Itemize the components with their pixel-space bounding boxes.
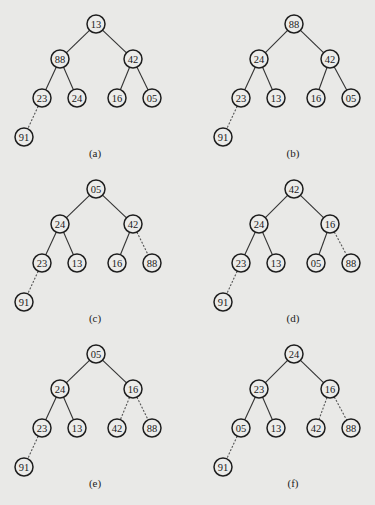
- tree-edge: [103, 30, 127, 53]
- node-value: 23: [236, 93, 247, 104]
- tree-node: 42: [307, 419, 325, 437]
- panel-caption: (b): [287, 147, 300, 160]
- node-value: 88: [346, 423, 357, 434]
- node-value: 42: [128, 54, 139, 65]
- node-value: 13: [271, 93, 282, 104]
- node-value: 23: [37, 258, 48, 269]
- node-value: 24: [254, 54, 265, 65]
- node-value: 05: [91, 349, 102, 360]
- tree-node: 91: [15, 458, 33, 476]
- tree-edge: [46, 232, 56, 255]
- tree-node: 13: [68, 419, 86, 437]
- tree-node: 13: [68, 254, 86, 272]
- panel-caption: (d): [287, 312, 300, 325]
- dashed-edge: [137, 232, 148, 255]
- tree-node: 05: [342, 89, 360, 107]
- tree-node: 24: [285, 345, 303, 363]
- node-value: 23: [37, 423, 48, 434]
- tree-edge: [46, 397, 56, 420]
- tree-edge: [245, 232, 255, 255]
- tree-edge: [319, 68, 327, 90]
- tree-edge: [64, 397, 74, 419]
- tree-edge: [64, 67, 74, 89]
- dashed-edge: [28, 436, 38, 459]
- node-value: 91: [19, 132, 30, 143]
- tree-node: 05: [143, 89, 161, 107]
- tree-panel-a: 1388422324160591(a): [15, 15, 161, 160]
- node-value: 05: [91, 184, 102, 195]
- tree-edge: [263, 232, 273, 254]
- tree-edge: [265, 30, 287, 52]
- node-value: 91: [218, 462, 229, 473]
- panel-caption: (e): [89, 477, 102, 490]
- node-value: 13: [271, 258, 282, 269]
- tree-edge: [319, 233, 327, 255]
- node-value: 42: [289, 184, 300, 195]
- node-value: 13: [72, 423, 83, 434]
- node-value: 23: [236, 258, 247, 269]
- tree-node: 42: [108, 419, 126, 437]
- node-value: 13: [271, 423, 282, 434]
- node-value: 88: [346, 258, 357, 269]
- tree-edge: [245, 397, 255, 420]
- tree-panel-d: 4224162313058891(d): [214, 180, 360, 325]
- tree-node: 05: [87, 345, 105, 363]
- tree-edge: [67, 360, 90, 382]
- dashed-edge: [227, 106, 237, 129]
- node-value: 42: [311, 423, 322, 434]
- node-value: 42: [325, 54, 336, 65]
- node-value: 24: [55, 219, 66, 230]
- tree-node: 24: [250, 50, 268, 68]
- tree-node: 16: [124, 380, 142, 398]
- tree-node: 91: [214, 458, 232, 476]
- tree-node: 23: [232, 254, 250, 272]
- tree-edge: [265, 360, 287, 382]
- node-value: 23: [254, 384, 265, 395]
- tree-panel-f: 2423160513428891(f): [214, 345, 360, 490]
- dashed-edge: [28, 271, 38, 294]
- tree-edge: [301, 195, 324, 217]
- tree-node: 05: [232, 419, 250, 437]
- node-value: 88: [147, 423, 158, 434]
- tree-node: 91: [214, 293, 232, 311]
- node-value: 05: [147, 93, 158, 104]
- tree-node: 05: [87, 180, 105, 198]
- node-value: 13: [72, 258, 83, 269]
- node-value: 13: [91, 19, 102, 30]
- tree-node: 13: [267, 419, 285, 437]
- tree-panel-b: 8824422313160591(b): [214, 15, 360, 160]
- tree-node: 88: [143, 419, 161, 437]
- tree-node: 24: [51, 215, 69, 233]
- heap-sort-figure: 1388422324160591(a)8824422313160591(b)05…: [0, 0, 375, 505]
- tree-node: 13: [267, 89, 285, 107]
- node-value: 24: [289, 349, 300, 360]
- tree-node: 42: [124, 215, 142, 233]
- tree-node: 23: [232, 89, 250, 107]
- tree-node: 42: [321, 50, 339, 68]
- tree-node: 23: [33, 419, 51, 437]
- tree-edge: [67, 195, 90, 217]
- node-value: 24: [55, 384, 66, 395]
- tree-node: 91: [15, 128, 33, 146]
- tree-node: 88: [285, 15, 303, 33]
- node-value: 91: [19, 297, 30, 308]
- tree-edge: [301, 360, 324, 382]
- dashed-edge: [334, 397, 346, 420]
- tree-node: 13: [267, 254, 285, 272]
- tree-edge: [301, 30, 324, 52]
- panel-caption: (f): [288, 477, 299, 490]
- tree-edge: [137, 67, 148, 90]
- node-value: 05: [346, 93, 357, 104]
- tree-panel-c: 0524422313168891(c): [15, 180, 161, 325]
- tree-edge: [334, 67, 346, 90]
- tree-edge: [245, 67, 255, 90]
- tree-node: 88: [51, 50, 69, 68]
- tree-panel-e: 0524162313428891(e): [15, 345, 161, 490]
- dashed-edge: [28, 106, 38, 129]
- node-value: 88: [289, 19, 300, 30]
- tree-node: 42: [285, 180, 303, 198]
- tree-node: 16: [321, 215, 339, 233]
- node-value: 16: [325, 384, 336, 395]
- node-value: 24: [254, 219, 265, 230]
- tree-node: 88: [342, 419, 360, 437]
